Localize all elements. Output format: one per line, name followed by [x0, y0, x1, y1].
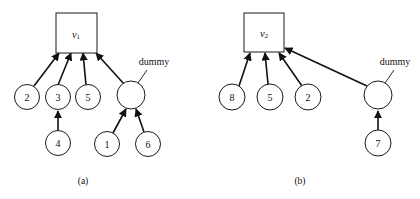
node-dummy-a — [117, 81, 145, 109]
edge-3-to-v1 — [58, 53, 71, 85]
node-2-b-label: 2 — [306, 92, 311, 103]
panel-a: v1 2 3 5 4 1 6 dummy (a) — [15, 13, 170, 187]
node-8-label: 8 — [230, 92, 235, 103]
edge-2-to-v2 — [279, 53, 302, 86]
dummy-label-b: dummy — [380, 56, 411, 67]
node-5-label: 5 — [86, 92, 91, 103]
node-7-label: 7 — [376, 138, 381, 149]
panel-b: v2 8 5 2 7 dummy (b) — [219, 13, 410, 187]
node-3-label: 3 — [56, 92, 61, 103]
edge-2-to-v1 — [34, 53, 59, 86]
edge-5-to-v2 — [265, 53, 268, 84]
node-dummy-b — [364, 81, 392, 109]
edge-5-to-v1 — [83, 53, 86, 85]
caption-b: (b) — [294, 176, 305, 187]
edge-1-to-dummy — [113, 109, 126, 133]
node-6-label: 6 — [146, 139, 151, 150]
diagram-canvas: v1 2 3 5 4 1 6 dummy (a) — [0, 0, 420, 199]
edge-6-to-dummy — [136, 109, 144, 132]
edge-8-to-v2 — [239, 53, 250, 86]
node-5-b-label: 5 — [268, 92, 273, 103]
node-4-label: 4 — [56, 138, 61, 149]
node-2-label: 2 — [25, 92, 30, 103]
edge-dummy-to-v1 — [96, 53, 124, 84]
figure-container: v1 2 3 5 4 1 6 dummy (a) — [0, 0, 420, 199]
caption-a: (a) — [78, 176, 89, 187]
node-1-label: 1 — [105, 139, 110, 150]
dummy-label-a: dummy — [139, 56, 170, 67]
